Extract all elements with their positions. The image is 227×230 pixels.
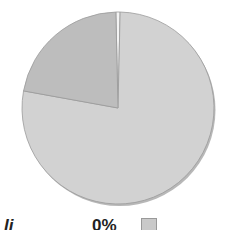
legend: li 0% — [0, 216, 227, 230]
legend-label: li — [4, 216, 13, 230]
legend-percent: 0% — [92, 216, 117, 230]
pie-slice — [24, 12, 118, 108]
legend-swatch — [141, 218, 157, 230]
pie-chart — [0, 0, 227, 215]
